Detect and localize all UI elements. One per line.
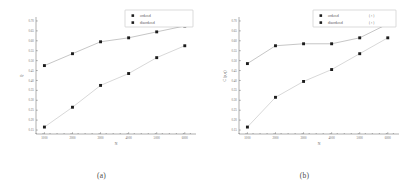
xtick-label: 5000 — [154, 136, 161, 140]
chart-b-series — [246, 22, 389, 128]
ytick-label: 0.20 — [28, 118, 34, 122]
panel-b: 0.150.200.250.300.350.400.450.500.550.60… — [203, 0, 406, 188]
xtick-label: 6000 — [385, 136, 392, 140]
ytick-label: 0.45 — [28, 69, 34, 73]
chart-a-legend: ordered disordered — [125, 10, 193, 27]
ytick-label: 0.35 — [231, 88, 237, 92]
xtick-label: 2000 — [69, 136, 76, 140]
chart-b-axis-titles: C (p, q) N — [223, 70, 321, 146]
xtick-label: 2000 — [272, 136, 279, 140]
legend-marker-disordered — [132, 21, 135, 24]
data-point-disordered — [358, 52, 361, 55]
data-point-disordered — [246, 126, 249, 129]
legend-label-disordered: disordered — [140, 21, 155, 25]
chart-b-ylabel: C (p, q) — [223, 70, 228, 82]
ytick-label: 0.60 — [28, 39, 34, 43]
chart-b: 0.150.200.250.300.350.400.450.500.550.60… — [203, 0, 406, 188]
legend-label-ordered: ordered — [140, 14, 151, 18]
data-point-ordered — [358, 36, 361, 39]
legend-suffix-disordered: ( × ) — [369, 21, 374, 25]
data-point-disordered — [183, 44, 186, 47]
data-point-disordered — [43, 126, 46, 129]
legend-label-ordered: ordered — [328, 14, 339, 18]
chart-a-yticks: 0.150.200.250.300.350.400.450.500.550.60… — [28, 19, 37, 132]
data-point-ordered — [71, 52, 74, 55]
data-point-disordered — [274, 96, 277, 99]
chart-b-yticks: 0.150.200.250.300.350.400.450.500.550.60… — [231, 19, 240, 132]
data-point-disordered — [330, 68, 333, 71]
data-point-ordered — [302, 42, 305, 45]
ytick-label: 0.30 — [28, 98, 34, 102]
legend-marker-disordered — [320, 21, 323, 24]
series-line-disordered — [247, 38, 387, 127]
chart-a: 0.150.200.250.300.350.400.450.500.550.60… — [0, 0, 203, 188]
data-point-ordered — [246, 62, 249, 65]
legend-suffix-ordered: ( × ) — [369, 14, 374, 18]
ytick-label: 0.15 — [231, 128, 237, 132]
chart-a-xlabel: N — [115, 142, 118, 146]
chart-a-ylabel: Q — [20, 74, 24, 77]
data-point-ordered — [330, 42, 333, 45]
data-point-disordered — [155, 56, 158, 59]
legend-marker-ordered — [320, 14, 323, 17]
data-point-disordered — [302, 80, 305, 83]
ytick-label: 0.70 — [231, 19, 237, 23]
xtick-label: 3000 — [97, 136, 104, 140]
data-point-ordered — [155, 30, 158, 33]
xtick-label: 1000 — [41, 136, 48, 140]
xtick-label: 5000 — [357, 136, 364, 140]
caption-a: (a) — [0, 171, 203, 180]
ytick-label: 0.25 — [231, 108, 237, 112]
data-point-disordered — [99, 84, 102, 87]
ytick-label: 0.65 — [28, 29, 34, 33]
figure-container: 0.150.200.250.300.350.400.450.500.550.60… — [0, 0, 406, 188]
xtick-label: 4000 — [126, 136, 133, 140]
data-point-ordered — [99, 40, 102, 43]
ytick-label: 0.45 — [231, 69, 237, 73]
xtick-label: 4000 — [329, 136, 336, 140]
data-point-ordered — [274, 44, 277, 47]
legend-marker-ordered — [132, 14, 135, 17]
ytick-label: 0.55 — [231, 49, 237, 53]
series-line-ordered — [44, 26, 184, 66]
data-point-ordered — [43, 64, 46, 67]
chart-b-xlabel: N — [318, 142, 321, 146]
ytick-label: 0.40 — [231, 79, 237, 83]
chart-a-series — [43, 24, 186, 128]
caption-b: (b) — [203, 171, 406, 180]
ytick-label: 0.60 — [231, 39, 237, 43]
chart-a-axes — [36, 17, 196, 134]
data-point-disordered — [127, 72, 130, 75]
ytick-label: 0.15 — [28, 128, 34, 132]
legend-label-disordered: disordered — [328, 21, 343, 25]
chart-b-axes — [239, 17, 399, 134]
data-point-disordered — [386, 36, 389, 39]
ytick-label: 0.50 — [231, 59, 237, 63]
series-line-disordered — [44, 46, 184, 127]
data-point-ordered — [127, 36, 130, 39]
ytick-label: 0.50 — [28, 59, 34, 63]
ytick-label: 0.65 — [231, 29, 237, 33]
series-line-ordered — [247, 24, 387, 64]
chart-b-xticks: 100020003000400050006000 — [239, 132, 393, 140]
xtick-label: 3000 — [300, 136, 307, 140]
xtick-label: 6000 — [182, 136, 189, 140]
ytick-label: 0.55 — [28, 49, 34, 53]
ytick-label: 0.25 — [28, 108, 34, 112]
xtick-label: 1000 — [244, 136, 251, 140]
panel-a: 0.150.200.250.300.350.400.450.500.550.60… — [0, 0, 203, 188]
ytick-label: 0.30 — [231, 98, 237, 102]
ytick-label: 0.35 — [28, 88, 34, 92]
ytick-label: 0.20 — [231, 118, 237, 122]
ytick-label: 0.40 — [28, 79, 34, 83]
chart-a-xticks: 100020003000400050006000 — [36, 132, 190, 140]
chart-b-legend: ordered ( × ) disordered ( × ) — [313, 10, 396, 27]
data-point-disordered — [71, 106, 74, 109]
ytick-label: 0.70 — [28, 19, 34, 23]
